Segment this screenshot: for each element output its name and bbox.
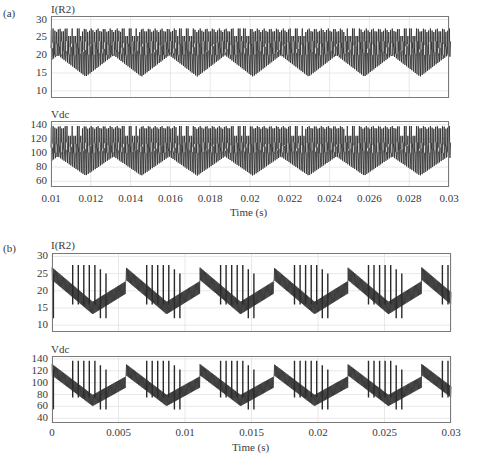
x-tick-label: 0: [49, 427, 55, 438]
x-tick-label: 0.02: [240, 193, 259, 204]
y-tick-label: 100: [18, 377, 48, 388]
x-tick-label: 0.005: [106, 427, 131, 438]
y-tick-label: 20: [18, 285, 48, 296]
y-tick-label: 25: [17, 31, 47, 42]
y-tick-label: 20: [17, 49, 47, 60]
b-xlabel: Time (s): [232, 442, 269, 453]
a-xlabel: Time (s): [230, 207, 267, 218]
x-tick-label: 0.01: [41, 193, 60, 204]
x-tick-label: 0.012: [78, 193, 103, 204]
panel-b-label: (b): [3, 243, 16, 254]
x-tick-label: 0.028: [397, 193, 422, 204]
x-tick-label: 0.03: [439, 193, 458, 204]
x-tick-label: 0.018: [198, 193, 223, 204]
y-tick-label: 120: [17, 133, 47, 144]
x-tick-label: 0.016: [158, 193, 183, 204]
y-tick-label: 80: [17, 161, 47, 172]
y-tick-label: 25: [18, 268, 48, 279]
x-tick-label: 0.01: [175, 427, 194, 438]
y-tick-label: 140: [17, 119, 47, 130]
a-vdc-title: Vdc: [51, 109, 69, 120]
b-vdc-plot: [52, 356, 451, 423]
a-current-title: I(R2): [51, 4, 75, 15]
panel-a-label: (a): [3, 8, 15, 19]
x-tick-label: 0.015: [239, 427, 264, 438]
a-vdc-plot: [51, 121, 449, 187]
x-tick-label: 0.024: [317, 193, 342, 204]
x-tick-label: 0.02: [308, 427, 327, 438]
x-tick-label: 0.03: [441, 427, 460, 438]
b-current-title: I(R2): [51, 240, 75, 251]
y-tick-label: 80: [18, 389, 48, 400]
y-tick-label: 15: [17, 67, 47, 78]
y-tick-label: 40: [18, 412, 48, 423]
y-tick-label: 60: [18, 400, 48, 411]
b-current-plot: [52, 253, 451, 332]
x-tick-label: 0.014: [118, 193, 143, 204]
y-tick-label: 30: [17, 14, 47, 25]
x-tick-label: 0.026: [357, 193, 382, 204]
x-tick-label: 0.022: [277, 193, 302, 204]
b-vdc-title: Vdc: [51, 344, 69, 355]
y-tick-label: 100: [17, 147, 47, 158]
y-tick-label: 30: [18, 250, 48, 261]
x-tick-label: 0.025: [372, 427, 397, 438]
a-current-plot: [51, 16, 449, 98]
y-tick-label: 120: [18, 365, 48, 376]
y-tick-label: 60: [17, 175, 47, 186]
y-tick-label: 140: [18, 353, 48, 364]
y-tick-label: 10: [17, 85, 47, 96]
y-tick-label: 10: [18, 319, 48, 330]
y-tick-label: 15: [18, 302, 48, 313]
